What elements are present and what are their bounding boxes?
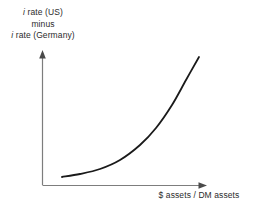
x-axis-label-text: $ assets / DM assets (142, 190, 256, 202)
y-axis-label-line-3-text: rate (Germany) (13, 30, 75, 40)
y-axis-label-line-2: minus (0, 19, 86, 31)
y-axis-label: i rate (US) minus i rate (Germany) (0, 7, 86, 42)
y-axis-arrow-icon (39, 50, 46, 59)
figure-canvas: i rate (US) minus i rate (Germany) $ ass… (0, 0, 258, 210)
y-axis-label-line-3: i rate (Germany) (0, 30, 86, 42)
y-axis-label-line-1-text: rate (US) (25, 7, 63, 17)
interest-differential-curve (62, 57, 199, 177)
y-axis-label-line-1: i rate (US) (0, 7, 86, 19)
x-axis-label: $ assets / DM assets (142, 190, 256, 202)
x-axis-arrow-icon (199, 182, 208, 189)
